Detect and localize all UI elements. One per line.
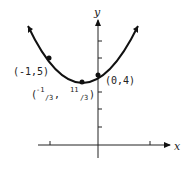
y-axis-label: y xyxy=(93,6,101,19)
svg-text:-1: -1 xyxy=(36,86,44,94)
svg-text:11: 11 xyxy=(70,86,78,94)
svg-text:3: 3 xyxy=(49,94,53,102)
vertex-label: ( -1 / 3 , 11 / 3 ) xyxy=(31,86,95,102)
svg-text:): ) xyxy=(89,89,95,100)
y-axis xyxy=(98,20,102,158)
svg-text:3: 3 xyxy=(84,94,88,102)
svg-text:,: , xyxy=(54,89,60,100)
point-0-4 xyxy=(96,73,101,78)
label-0-4: (0,4) xyxy=(105,75,135,86)
vertex-point xyxy=(80,80,85,85)
label-neg1-5: (-1,5) xyxy=(13,66,49,77)
x-axis-label: x xyxy=(174,140,181,153)
x-axis xyxy=(38,141,170,145)
parabola-graph: x y (-1,5) (0,4) ( -1 / 3 , 11 / 3 ) xyxy=(0,0,189,171)
point-neg1-5 xyxy=(47,56,52,61)
